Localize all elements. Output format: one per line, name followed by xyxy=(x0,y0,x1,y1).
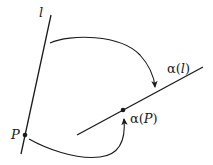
arrow-p-to-alpha-p xyxy=(29,119,124,157)
point-alpha-p-label: α(P) xyxy=(130,111,158,126)
point-alpha-p xyxy=(121,108,126,113)
mapping-diagram: l P α(l) α(P) xyxy=(0,0,213,165)
arrow-l-to-alpha-l xyxy=(50,37,155,87)
line-alpha-l-label: α(l) xyxy=(167,61,190,76)
point-p-label: P xyxy=(10,127,20,142)
line-l-label: l xyxy=(39,5,43,20)
point-p xyxy=(23,133,28,138)
